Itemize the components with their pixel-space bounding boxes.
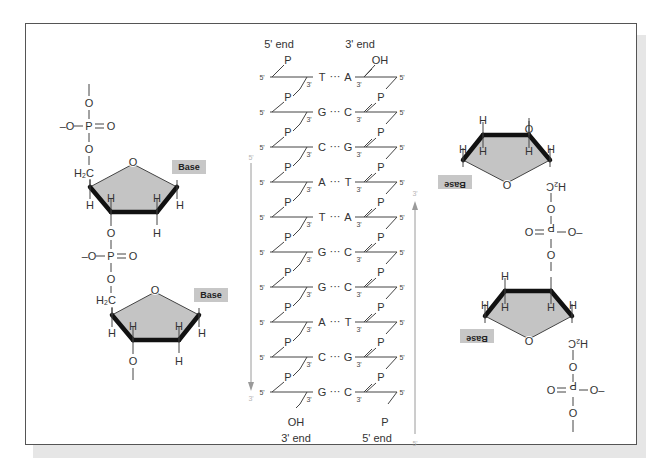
- right-strand: O O H H H H H Base H₂C O O P O– O O H H …: [438, 114, 605, 432]
- phosphate-p: P: [377, 301, 384, 313]
- atom-o: O: [569, 407, 578, 419]
- atom-h: H: [547, 301, 555, 313]
- down-arrow: 5' 3': [248, 154, 254, 402]
- base-right: C: [344, 386, 352, 398]
- atom-h: H: [501, 270, 509, 282]
- phosphate-p: P: [377, 231, 384, 243]
- atom-h: H: [547, 143, 555, 155]
- phosphate-p: P: [284, 161, 291, 173]
- hydrogen-bond-dots: ···: [330, 140, 341, 152]
- atom-p: P: [547, 222, 554, 234]
- label-3-end-bottom: 3' end: [281, 432, 311, 444]
- phosphate-p: P: [377, 196, 384, 208]
- atom-o: O: [129, 250, 138, 262]
- atom-h2c: H₂C: [96, 294, 116, 306]
- base-label: Base: [200, 290, 222, 300]
- base-label: Base: [466, 334, 488, 344]
- atom-o: O: [547, 249, 556, 261]
- up-arrow: 3' 5': [412, 190, 418, 447]
- prime-5-label: 5': [259, 109, 264, 116]
- label-3-end-top: 3' end: [345, 38, 375, 50]
- atom-o: O: [547, 384, 556, 396]
- prime-3-label: 3': [306, 396, 311, 403]
- prime-3-label: 3': [356, 361, 361, 368]
- label-5-end-top: 5' end: [264, 38, 294, 50]
- prime-3-label: 3': [306, 291, 311, 298]
- atom-h: H: [175, 320, 183, 332]
- prime-5-label: 5': [399, 319, 404, 326]
- phosphate-p: P: [377, 371, 384, 383]
- base-right: C: [344, 246, 352, 258]
- atom-h: H: [501, 301, 509, 313]
- base-right: C: [344, 281, 352, 293]
- svg-text:3': 3': [248, 395, 253, 402]
- atom-h: H: [525, 145, 533, 157]
- atom-h: H: [569, 299, 577, 311]
- prime-5-label: 5': [259, 144, 264, 151]
- base-left: A: [318, 176, 326, 188]
- prime-5-label: 5': [399, 389, 404, 396]
- phosphate-p: P: [377, 266, 384, 278]
- phosphate-p: P: [284, 336, 291, 348]
- prime-5-label: 5': [259, 354, 264, 361]
- phosphate-p: P: [284, 371, 291, 383]
- phosphate-p: P: [284, 266, 291, 278]
- svg-text:5': 5': [412, 440, 417, 447]
- prime-5-label: 5': [399, 144, 404, 151]
- base-left: T: [319, 71, 326, 83]
- prime-3-label: 3': [306, 361, 311, 368]
- atom-minus-o: –O: [82, 250, 97, 262]
- base-right: T: [345, 316, 352, 328]
- prime-5-label: 5': [259, 179, 264, 186]
- base-right: T: [345, 176, 352, 188]
- prime-5-label: 5': [259, 319, 264, 326]
- prime-5-label: 5': [259, 74, 264, 81]
- atom-h2c: H₂C: [74, 167, 94, 179]
- prime-5-label: 5': [259, 249, 264, 256]
- prime-3-label: 3': [356, 221, 361, 228]
- prime-5-label: 5': [399, 109, 404, 116]
- ring-o: O: [525, 335, 534, 347]
- prime-3-label: 3': [356, 81, 361, 88]
- base-left: C: [318, 351, 326, 363]
- prime-3-label: 3': [356, 256, 361, 263]
- prime-3-label: 3': [356, 186, 361, 193]
- base-right: C: [344, 106, 352, 118]
- prime-3-label: 3': [306, 81, 311, 88]
- atom-o-minus: O–: [590, 384, 606, 396]
- prime-3-label: 3': [306, 221, 311, 228]
- prime-3-label: 3': [306, 116, 311, 123]
- dna-diagram: O –O P O O H₂C O H H H H H Base O –O P O…: [0, 0, 664, 472]
- prime-3-label: 3': [306, 186, 311, 193]
- left-strand: O –O P O O H₂C O H H H H H Base O –O P O…: [60, 84, 228, 380]
- hydrogen-bond-dots: ···: [330, 175, 341, 187]
- atom-minus-o: –O: [60, 120, 75, 132]
- base-left: C: [318, 141, 326, 153]
- base-left: G: [318, 106, 327, 118]
- base-right: G: [344, 141, 353, 153]
- atom-h: H: [176, 199, 184, 211]
- atom-o: O: [85, 143, 94, 155]
- base-left: G: [318, 281, 327, 293]
- atom-o: O: [569, 361, 578, 373]
- base-label: Base: [178, 162, 200, 172]
- phosphate-p: P: [284, 91, 291, 103]
- atom-p: P: [107, 250, 114, 262]
- prime-5-label: 5': [259, 214, 264, 221]
- base-right: G: [344, 351, 353, 363]
- terminal-oh: OH: [288, 416, 305, 428]
- atom-h: H: [108, 327, 116, 339]
- atom-o: O: [129, 355, 138, 367]
- hydrogen-bond-dots: ···: [330, 385, 341, 397]
- atom-o: O: [547, 203, 556, 215]
- hydrogen-bond-dots: ···: [330, 315, 341, 327]
- phosphate-p: P: [377, 336, 384, 348]
- atom-h: H: [153, 227, 161, 239]
- terminal-oh: OH: [372, 54, 389, 66]
- base-right: A: [344, 71, 352, 83]
- hydrogen-bond-dots: ···: [330, 245, 341, 257]
- prime-3-label: 3': [356, 151, 361, 158]
- terminal-p: P: [381, 416, 388, 428]
- prime-3-label: 3': [306, 256, 311, 263]
- prime-5-label: 5': [399, 74, 404, 81]
